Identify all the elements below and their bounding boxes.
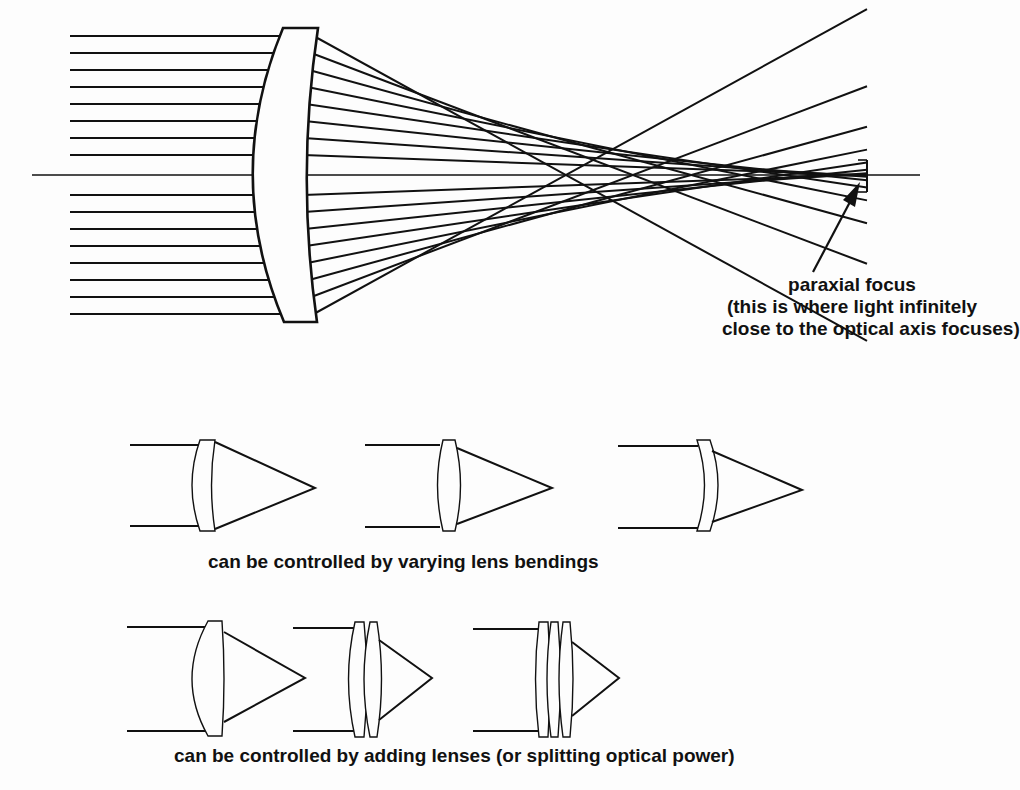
annotation-line-1: paraxial focus <box>722 274 982 296</box>
split-variant-1 <box>127 621 305 736</box>
row-splitting <box>127 621 619 737</box>
split-variant-3 <box>473 622 619 737</box>
annotation-line-2: (this is where light infinitely <box>722 296 982 318</box>
caption-lens-bendings: can be controlled by varying lens bendin… <box>208 551 599 573</box>
paraxial-focus-label: paraxial focus (this is where light infi… <box>722 274 982 340</box>
row-bendings <box>130 440 802 531</box>
bending-variant-1 <box>130 440 315 531</box>
bending-variant-3 <box>618 440 802 531</box>
caption-adding-lenses: can be controlled by adding lenses (or s… <box>174 745 735 767</box>
bending-variant-2 <box>365 440 552 531</box>
annotation-line-3: close to the optical axis focuses) <box>722 318 982 340</box>
split-variant-2 <box>293 622 432 737</box>
